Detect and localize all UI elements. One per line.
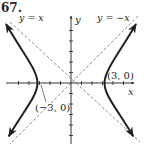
hyperbola-graph: 67. x [0,0,145,144]
vertex-leader-line [41,85,46,102]
vertex-label-right: (3, 0) [107,70,134,81]
y-axis-label: y [74,14,81,25]
y-axis: y [69,14,81,144]
left-branch-curve [6,24,38,136]
asymptote-label-y-equals-neg-x: y = −x [96,12,130,23]
x-axis: x [6,81,134,97]
asymptote-y-equals-x [10,22,140,142]
asymptote-label-y-equals-x: y = x [18,12,44,23]
x-axis-label: x [128,86,134,97]
vertex-label-left: (−3, 0) [35,102,70,113]
